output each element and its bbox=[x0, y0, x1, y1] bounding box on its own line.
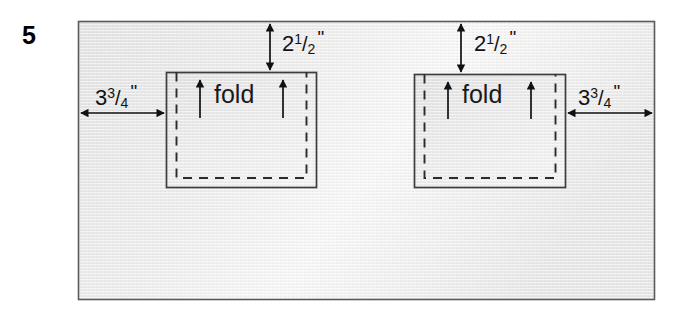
fraction: 1/2 bbox=[486, 33, 507, 55]
fraction-numerator: 3 bbox=[107, 85, 115, 101]
fraction-bar: / bbox=[494, 33, 500, 55]
dim-whole: 3 bbox=[578, 85, 590, 110]
fraction: 3/4 bbox=[107, 87, 128, 109]
fraction-numerator: 1 bbox=[486, 31, 494, 47]
fabric-panel bbox=[79, 22, 655, 300]
inch-mark: " bbox=[130, 81, 137, 102]
fraction: 3/4 bbox=[590, 87, 611, 109]
inch-mark: " bbox=[317, 27, 324, 48]
fraction-bar: / bbox=[302, 33, 308, 55]
fraction-denominator: 4 bbox=[121, 95, 129, 111]
inch-mark: " bbox=[613, 81, 620, 102]
fraction: 1/2 bbox=[294, 33, 315, 55]
dim-whole: 3 bbox=[95, 85, 107, 110]
figure-canvas: 5 21/2" 21/2" 33/4" 33/4" fold fold bbox=[0, 0, 684, 320]
dimension-label-right: 33/4" bbox=[578, 87, 620, 109]
diagram-svg bbox=[0, 0, 684, 320]
fraction-denominator: 4 bbox=[604, 95, 612, 111]
fraction-denominator: 2 bbox=[500, 41, 508, 57]
dimension-label-left: 33/4" bbox=[95, 87, 137, 109]
dimension-label-top-left: 21/2" bbox=[282, 33, 324, 55]
fold-label-left: fold bbox=[214, 82, 254, 107]
fraction-numerator: 1 bbox=[294, 31, 302, 47]
fraction-bar: / bbox=[115, 87, 121, 109]
fraction-bar: / bbox=[598, 87, 604, 109]
panel-texture bbox=[79, 22, 655, 300]
problem-number: 5 bbox=[22, 23, 36, 48]
inch-mark: " bbox=[509, 27, 516, 48]
fraction-denominator: 2 bbox=[308, 41, 316, 57]
dimension-label-top-right: 21/2" bbox=[474, 33, 516, 55]
fold-label-right: fold bbox=[462, 82, 502, 107]
dim-whole: 2 bbox=[474, 31, 486, 56]
dim-whole: 2 bbox=[282, 31, 294, 56]
fraction-numerator: 3 bbox=[590, 85, 598, 101]
